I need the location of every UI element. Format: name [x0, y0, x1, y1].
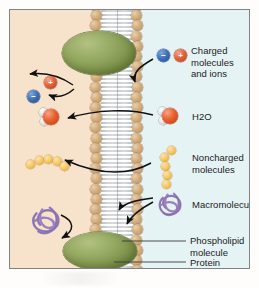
legend-label-water: H2O: [192, 111, 212, 123]
water-label-h: H: [192, 111, 199, 122]
legend-label-noncharged: Noncharged molecules: [192, 152, 244, 175]
noncharged-molecule-bead: [167, 146, 176, 155]
noncharged-molecule-bead: [161, 162, 170, 171]
legend-macromolecule-icon: [154, 189, 186, 221]
legend-label-charged: Charged molecules and ions: [191, 45, 249, 80]
water-label-o: O: [204, 111, 211, 122]
legend-label-macromolecule: Macromolecule: [192, 199, 250, 211]
legend-label-protein: Protein: [190, 257, 220, 269]
noncharged-molecule-bead: [160, 153, 169, 162]
scan-artifact: [40, 272, 120, 285]
figure-frame: − + − +: [9, 9, 250, 269]
membrane-permeability-figure: − + − +: [0, 0, 259, 288]
legend-label-phospholipid: Phospholipid molecule: [190, 235, 244, 258]
noncharged-molecule-bead: [163, 171, 172, 180]
noncharged-molecule-bead: [162, 180, 171, 189]
